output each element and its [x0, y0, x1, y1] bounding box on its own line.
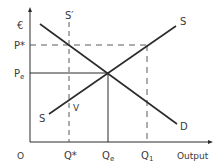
s-prime-label: S′	[65, 10, 74, 21]
x-axis-label: Output	[177, 151, 209, 161]
q-star-label: Q*	[64, 150, 77, 161]
supply-curve	[49, 26, 176, 114]
point-v-label: V	[73, 103, 80, 113]
y-axis-label: €	[17, 20, 23, 31]
q1-label: Q1	[141, 150, 153, 163]
demand-label: D	[180, 121, 188, 132]
supply-label-top: S	[180, 16, 186, 27]
pe-label: Pe	[14, 68, 24, 81]
y-axis-arrow-icon	[28, 7, 32, 12]
qe-label: Qe	[102, 150, 114, 163]
qe-subscript: e	[110, 155, 114, 163]
q1-subscript: 1	[149, 155, 153, 163]
supply-label-bottom: S	[39, 113, 45, 124]
pe-subscript: e	[20, 73, 24, 81]
origin-label: O	[17, 151, 24, 161]
supply-demand-diagram: € S′ P* Pe S S V D O Q* Qe Q1 Output	[0, 0, 223, 167]
p-star-label: P*	[14, 40, 25, 51]
x-axis-arrow-icon	[208, 140, 213, 144]
